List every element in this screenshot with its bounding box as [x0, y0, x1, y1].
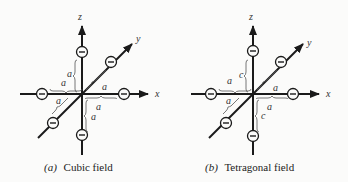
charge-icon [37, 89, 48, 100]
charge-icon [221, 118, 232, 129]
y-axis-label: y [135, 33, 141, 44]
figure-tetragonal-field: z y x c a a a a c (b) Tetragonal field [191, 11, 331, 174]
charge-icon [119, 89, 130, 100]
distance-label: a [273, 82, 278, 93]
caption-text: Tetragonal field [224, 161, 294, 173]
caption-text: Cubic field [64, 161, 114, 173]
brace-z-up [73, 60, 77, 92]
charge-icon [288, 89, 299, 100]
charge-icon [77, 130, 88, 141]
distance-label: a [102, 81, 107, 92]
caption-letter: (a) [44, 161, 57, 174]
figure-caption: (b) Tetragonal field [205, 161, 295, 174]
charge-icon [276, 57, 287, 68]
distance-label: a [227, 75, 232, 86]
distance-label: a [61, 77, 66, 88]
y-axis-label: y [306, 37, 312, 48]
charge-icon [248, 131, 259, 142]
charge-icon [106, 57, 117, 68]
charge-icon [48, 118, 59, 129]
distance-label: a [96, 101, 101, 112]
distance-label: c [239, 69, 244, 80]
crystal-field-diagrams: z y x a a a a a a (a) Cubic field z y x [0, 0, 348, 182]
caption-letter: (b) [205, 161, 218, 174]
brace-x-right [85, 96, 117, 99]
charge-icon [77, 47, 88, 58]
z-axis-label: z [248, 11, 253, 22]
x-axis-label: x [325, 88, 331, 99]
distance-label: a [91, 111, 96, 122]
figure-cubic-field: z y x a a a a a a (a) Cubic field [20, 11, 160, 174]
brace-z-up [244, 60, 248, 92]
brace-z-down [84, 100, 88, 132]
distance-label: a [67, 68, 72, 79]
charge-icon [206, 89, 217, 100]
x-axis-label: x [154, 88, 160, 99]
distance-label: a [56, 95, 61, 106]
figure-caption: (a) Cubic field [44, 161, 113, 174]
charge-icon [248, 46, 259, 57]
distance-label: a [267, 101, 272, 112]
distance-label: c [261, 110, 266, 121]
brace-x-right [256, 96, 288, 99]
distance-label: a [226, 95, 231, 106]
z-axis-label: z [77, 11, 82, 22]
brace-x-left [50, 89, 82, 93]
brace-z-down [255, 100, 259, 132]
